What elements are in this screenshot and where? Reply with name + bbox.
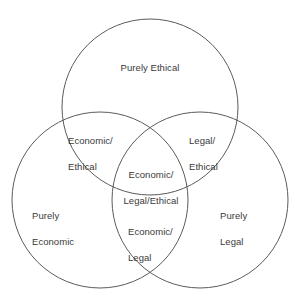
label-legal-ethical-line1: Legal/ xyxy=(189,135,215,146)
label-purely-ethical: Purely Ethical xyxy=(100,61,200,74)
label-purely-legal-line1: Purely xyxy=(220,210,247,221)
label-purely-legal: Purely Legal xyxy=(220,196,286,248)
label-purely-economic-line1: Purely xyxy=(32,210,59,221)
label-purely-economic-line2: Economic xyxy=(32,236,74,247)
label-all-three-line2: Legal/Ethical xyxy=(123,195,178,206)
label-economic-legal-line2: Legal xyxy=(128,252,152,263)
label-legal-ethical-line2: Ethical xyxy=(189,161,218,172)
label-economic-ethical-line2: Ethical xyxy=(68,161,97,172)
label-all-three-line1: Economic/ xyxy=(129,169,174,180)
venn-diagram: Purely Ethical Economic/ Ethical Legal/ … xyxy=(0,0,301,300)
label-economic-legal: Economic/ Legal xyxy=(128,212,200,264)
label-purely-legal-line2: Legal xyxy=(220,236,244,247)
label-purely-economic: Purely Economic xyxy=(32,196,104,248)
label-economic-legal-line1: Economic/ xyxy=(128,226,173,237)
label-economic-legal-ethical: Economic/ Legal/Ethical xyxy=(110,155,192,207)
label-legal-ethical: Legal/ Ethical xyxy=(189,121,255,173)
label-economic-ethical-line1: Economic/ xyxy=(68,135,113,146)
